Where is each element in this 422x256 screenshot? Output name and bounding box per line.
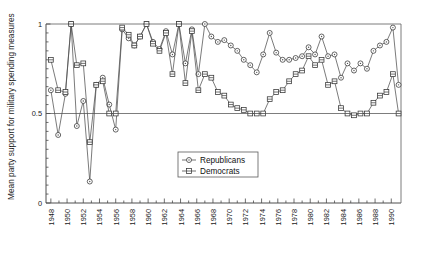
x-tick-label: 1962 (160, 209, 169, 225)
x-tick-label: 1966 (193, 209, 202, 225)
data-point-center-dot (386, 41, 387, 42)
data-point-center-dot (263, 54, 264, 55)
x-tick-label-group: 1948195019521954195619581960196219641966… (47, 209, 396, 225)
x-tick-label: 1978 (290, 209, 299, 225)
legend-marker-dot-icon (188, 159, 189, 160)
data-point-center-dot (243, 59, 244, 60)
y-axis-title-group: Mean party support for military spending… (6, 13, 16, 200)
data-point-center-dot (308, 47, 309, 48)
chart-legend[interactable]: RepublicansDemocrats (178, 152, 258, 177)
y-tick-label: 0.5 (32, 109, 42, 118)
data-point-center-dot (379, 45, 380, 46)
data-point-center-dot (224, 39, 225, 40)
data-point-center-dot (83, 100, 84, 101)
data-point-center-dot (50, 90, 51, 91)
data-point-center-dot (327, 56, 328, 57)
data-point-center-dot (237, 50, 238, 51)
data-point-center-dot (217, 41, 218, 42)
x-tick-label: 1976 (274, 209, 283, 225)
data-point-center-dot (198, 73, 199, 74)
x-tick-label: 1972 (241, 209, 250, 225)
data-point-center-dot (353, 70, 354, 71)
data-point-center-dot (275, 52, 276, 53)
x-tick-label: 1990 (387, 209, 396, 225)
x-tick-label: 1980 (306, 209, 315, 225)
data-point-center-dot (321, 36, 322, 37)
y-tick-label-group: 00.51 (32, 20, 42, 208)
data-point-center-dot (89, 181, 90, 182)
x-tick-label: 1948 (47, 209, 56, 225)
data-point-center-dot (128, 38, 129, 39)
x-tick-label: 1984 (339, 209, 348, 225)
data-point-center-dot (250, 64, 251, 65)
data-point-center-dot (204, 23, 205, 24)
data-point-center-dot (288, 59, 289, 60)
data-point-center-dot (334, 54, 335, 55)
data-point-center-dot (295, 57, 296, 58)
data-point-center-dot (76, 125, 77, 126)
data-point-center-dot (109, 104, 110, 105)
data-point-center-dot (398, 84, 399, 85)
data-point-center-dot (185, 63, 186, 64)
data-point-center-dot (301, 56, 302, 57)
data-point-center-dot (282, 59, 283, 60)
x-tick-label: 1952 (79, 209, 88, 225)
y-tick-label: 0 (38, 199, 42, 208)
x-tick-label: 1988 (371, 209, 380, 225)
data-point-center-dot (269, 32, 270, 33)
x-tick-label: 1982 (322, 209, 331, 225)
data-point-center-dot (256, 72, 257, 73)
x-tick-label: 1960 (144, 209, 153, 225)
x-tick-label: 1968 (209, 209, 218, 225)
y-axis-title: Mean party support for military spending… (6, 13, 16, 200)
data-point-center-dot (340, 77, 341, 78)
chart-container: Mean party support for military spending… (0, 0, 422, 256)
data-point-center-dot (373, 50, 374, 51)
x-tick-label: 1958 (128, 209, 137, 225)
data-point-center-dot (57, 134, 58, 135)
data-point-center-dot (392, 27, 393, 28)
data-point-center-dot (360, 63, 361, 64)
x-tick-label: 1974 (258, 209, 267, 225)
data-point-center-dot (172, 54, 173, 55)
chart-svg: Mean party support for military spending… (0, 0, 422, 256)
data-point-center-dot (230, 45, 231, 46)
y-tick-label: 1 (38, 20, 42, 29)
data-point-center-dot (211, 36, 212, 37)
x-tick-label: 1954 (95, 209, 104, 225)
data-point-center-dot (115, 129, 116, 130)
legend-label: Republicans (200, 156, 245, 165)
x-tick-label: 1964 (177, 209, 186, 225)
data-point-center-dot (347, 63, 348, 64)
x-tick-label: 1956 (112, 209, 121, 225)
data-point-center-dot (314, 54, 315, 55)
x-tick-label: 1970 (225, 209, 234, 225)
data-point-center-dot (102, 77, 103, 78)
x-tick-label: 1986 (355, 209, 364, 225)
x-tick-label: 1950 (63, 209, 72, 225)
data-point-center-dot (366, 68, 367, 69)
legend-label: Democrats (200, 167, 240, 176)
